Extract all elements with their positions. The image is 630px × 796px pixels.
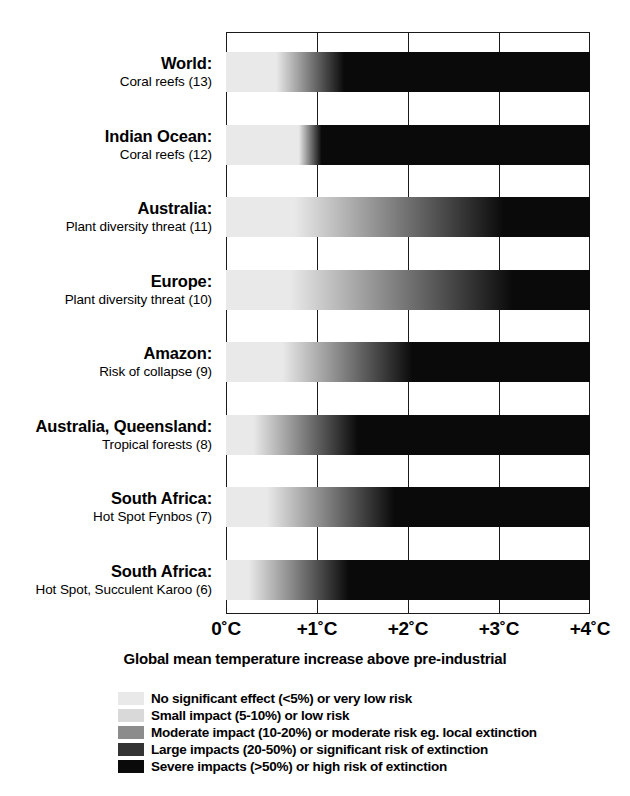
row-label-region: South Africa:	[0, 561, 212, 580]
chart-row: Europe:Plant diversity threat (10)	[0, 270, 630, 310]
legend-item: No significant effect (<5%) or very low …	[118, 690, 578, 706]
legend-swatch	[118, 692, 144, 705]
row-label-region: Amazon:	[0, 344, 212, 363]
legend-label: Severe impacts (>50%) or high risk of ex…	[151, 759, 447, 774]
impact-gradient-bar	[226, 487, 590, 527]
impact-gradient-bar	[226, 197, 590, 237]
legend-item: Large impacts (20-50%) or significant ri…	[118, 741, 578, 757]
row-label: Europe:Plant diversity threat (10)	[0, 271, 212, 307]
row-label-detail: Risk of collapse (9)	[0, 364, 212, 380]
impact-gradient-bar	[226, 270, 590, 310]
chart-rows: World:Coral reefs (13)Indian Ocean:Coral…	[0, 32, 630, 614]
x-tick-label: +4˚C	[570, 618, 611, 640]
legend-swatch	[118, 760, 144, 773]
row-label: Australia:Plant diversity threat (11)	[0, 199, 212, 235]
legend-item: Moderate impact (10-20%) or moderate ris…	[118, 724, 578, 740]
row-label-region: World:	[0, 54, 212, 73]
legend-swatch	[118, 726, 144, 739]
impact-gradient-bar	[226, 52, 590, 92]
impact-gradient-bar	[226, 342, 590, 382]
chart-row: South Africa:Hot Spot, Succulent Karoo (…	[0, 560, 630, 600]
row-label-detail: Coral reefs (12)	[0, 147, 212, 163]
chart-row: World:Coral reefs (13)	[0, 52, 630, 92]
row-label-region: Indian Ocean:	[0, 126, 212, 145]
legend-label: Small impact (5-10%) or low risk	[151, 708, 349, 723]
row-label-detail: Tropical forests (8)	[0, 437, 212, 453]
row-label-region: South Africa:	[0, 489, 212, 508]
x-tick-label: +2˚C	[388, 618, 429, 640]
legend-label: No significant effect (<5%) or very low …	[151, 691, 412, 706]
row-label-region: Australia:	[0, 199, 212, 218]
row-label: Indian Ocean:Coral reefs (12)	[0, 126, 212, 162]
row-label-detail: Hot Spot Fynbos (7)	[0, 509, 212, 525]
chart-legend: No significant effect (<5%) or very low …	[118, 690, 578, 775]
chart-row: South Africa:Hot Spot Fynbos (7)	[0, 487, 630, 527]
legend-label: Large impacts (20-50%) or significant ri…	[151, 742, 488, 757]
x-axis-tick-labels: 0˚C+1˚C+2˚C+3˚C+4˚C	[226, 618, 590, 648]
legend-item: Severe impacts (>50%) or high risk of ex…	[118, 758, 578, 774]
impact-gradient-bar	[226, 560, 590, 600]
legend-swatch	[118, 743, 144, 756]
x-axis-caption: Global mean temperature increase above p…	[0, 650, 630, 667]
chart-row: Australia:Plant diversity threat (11)	[0, 197, 630, 237]
impact-gradient-bar	[226, 415, 590, 455]
row-label-detail: Plant diversity threat (11)	[0, 219, 212, 235]
chart-row: Amazon:Risk of collapse (9)	[0, 342, 630, 382]
row-label: South Africa:Hot Spot Fynbos (7)	[0, 489, 212, 525]
row-label-detail: Hot Spot, Succulent Karoo (6)	[0, 582, 212, 598]
row-label: World:Coral reefs (13)	[0, 54, 212, 90]
legend-swatch	[118, 709, 144, 722]
chart-row: Australia, Queensland:Tropical forests (…	[0, 415, 630, 455]
legend-item: Small impact (5-10%) or low risk	[118, 707, 578, 723]
x-tick-label: +3˚C	[479, 618, 520, 640]
x-tick-label: 0˚C	[211, 618, 241, 640]
chart-row: Indian Ocean:Coral reefs (12)	[0, 125, 630, 165]
row-label-region: Europe:	[0, 271, 212, 290]
legend-label: Moderate impact (10-20%) or moderate ris…	[151, 725, 537, 740]
impact-gradient-bar	[226, 125, 590, 165]
row-label: South Africa:Hot Spot, Succulent Karoo (…	[0, 561, 212, 597]
row-label: Australia, Queensland:Tropical forests (…	[0, 416, 212, 452]
row-label-detail: Coral reefs (13)	[0, 74, 212, 90]
row-label-region: Australia, Queensland:	[0, 416, 212, 435]
x-tick-label: +1˚C	[297, 618, 338, 640]
row-label: Amazon:Risk of collapse (9)	[0, 344, 212, 380]
row-label-detail: Plant diversity threat (10)	[0, 292, 212, 308]
